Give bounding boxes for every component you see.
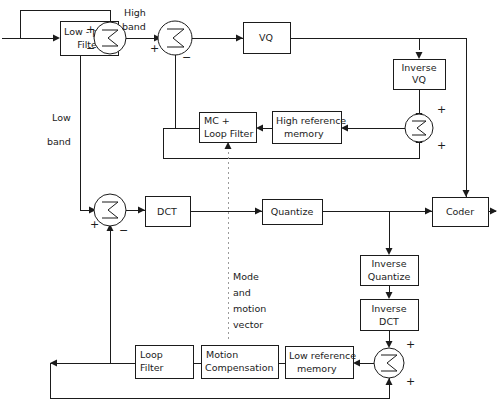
summer-high-reconstruct-plus-top: + xyxy=(437,103,446,116)
inverse-vq-label-line1: Inverse xyxy=(402,62,437,73)
summer-high-residual[interactable]: + − xyxy=(150,21,192,64)
low-reference-memory-label-line1: Low reference xyxy=(289,350,356,361)
summer-high-reconstruct-plus-bottom: + xyxy=(437,139,446,152)
mode-line2: and xyxy=(233,287,251,298)
arrowhead-summer-low-rec-top xyxy=(386,341,393,348)
block-inverse-vq[interactable]: Inverse VQ xyxy=(393,59,445,89)
block-loop-filter[interactable]: Loop Filter xyxy=(135,345,193,378)
mode-line3: motion xyxy=(233,303,266,314)
high-reference-memory-label-line1: High reference xyxy=(276,115,346,126)
low-band-line2: band xyxy=(47,136,71,147)
block-inverse-dct[interactable]: Inverse DCT xyxy=(360,299,418,330)
summer-high-split-plus: + xyxy=(86,23,95,36)
inverse-vq-label-line2: VQ xyxy=(412,74,426,85)
signal-flow-diagram: Low - pass Filter VQ Inverse VQ MC + Loo… xyxy=(0,0,499,413)
arrowhead-summer-low-rec-bottom xyxy=(386,378,393,385)
low-band-line1: Low xyxy=(52,112,71,123)
mc-loop-filter-label-line2: Loop Filter xyxy=(204,128,253,139)
summer-low-reconstruct[interactable]: + + xyxy=(374,338,415,388)
block-mc-loop-filter[interactable]: MC + Loop Filter xyxy=(199,112,256,142)
arrowhead-coder-top xyxy=(463,190,470,197)
arrowhead-inverse-vq-top xyxy=(416,52,423,59)
arrowhead-inverse-quantize-top xyxy=(386,248,393,255)
arrowhead-loopfilter-out xyxy=(50,360,57,367)
inverse-dct-label-line2: DCT xyxy=(379,316,399,327)
summer-low-reconstruct-plus-bottom: + xyxy=(406,375,415,388)
mc-loop-filter-label-line1: MC + xyxy=(204,115,230,126)
block-vq[interactable]: VQ xyxy=(243,22,290,53)
summer-low-reconstruct-circle xyxy=(374,348,404,378)
label-low-band: Low band xyxy=(47,112,71,147)
arrowhead-mcloop-bottom xyxy=(225,142,232,149)
label-high-band: High band xyxy=(122,7,146,32)
high-band-line1: High xyxy=(124,7,146,18)
summer-low-reconstruct-plus-top: + xyxy=(406,338,415,351)
label-mode-and-motion-vector: Mode and motion vector xyxy=(233,271,266,330)
summer-high-reconstruct-circle xyxy=(405,114,433,142)
summer-low-residual-minus: − xyxy=(119,224,128,237)
loop-filter-label-line2: Filter xyxy=(140,362,164,373)
arrowhead-dct-input xyxy=(138,207,145,214)
block-dct[interactable]: DCT xyxy=(145,196,190,226)
arrowhead-coder-output xyxy=(490,208,497,215)
coder-label: Coder xyxy=(446,206,474,217)
inverse-quantize-label-line1: Inverse xyxy=(372,258,407,269)
summer-high-residual-plus: + xyxy=(150,42,159,55)
loop-filter-label-line1: Loop xyxy=(140,349,163,360)
vq-label: VQ xyxy=(259,32,273,43)
arrowhead-mcloop-right-input xyxy=(256,125,263,132)
summer-high-split-minus: − xyxy=(86,42,95,55)
high-band-line2: band xyxy=(122,21,146,32)
arrowhead-lowpass-input xyxy=(53,35,60,42)
block-motion-compensation[interactable]: Motion Compensation xyxy=(201,345,278,378)
block-coder[interactable]: Coder xyxy=(432,197,488,226)
mode-line1: Mode xyxy=(233,271,259,282)
high-reference-memory-label-line2: memory xyxy=(284,128,324,139)
arrowhead-inverse-dct-top xyxy=(386,292,393,299)
motion-compensation-label-line2: Compensation xyxy=(205,362,274,373)
block-low-reference-memory[interactable]: Low reference memory xyxy=(285,346,356,378)
block-diagram-canvas: Low - pass Filter VQ Inverse VQ MC + Loo… xyxy=(0,0,499,413)
dct-label: DCT xyxy=(157,206,177,217)
inverse-dct-label-line1: Inverse xyxy=(372,303,407,314)
arrowhead-vq-input xyxy=(236,35,243,42)
summer-high-residual-circle xyxy=(158,21,192,55)
arrowhead-coder-left-input xyxy=(425,208,432,215)
block-high-reference-memory[interactable]: High reference memory xyxy=(272,111,346,143)
wire-lowband-branch xyxy=(80,38,96,210)
summer-high-residual-minus: − xyxy=(182,51,191,64)
block-quantize[interactable]: Quantize xyxy=(262,199,322,224)
motion-compensation-label-line1: Motion xyxy=(206,349,238,360)
arrowhead-quantize-input xyxy=(255,208,262,215)
mode-line4: vector xyxy=(233,319,263,330)
inverse-quantize-label-line2: Quantize xyxy=(368,271,411,282)
quantize-label: Quantize xyxy=(271,206,314,217)
block-inverse-quantize[interactable]: Inverse Quantize xyxy=(360,255,418,285)
low-reference-memory-label-line2: memory xyxy=(297,363,337,374)
summer-low-residual-plus: + xyxy=(90,218,99,231)
summer-high-reconstruct[interactable]: + + xyxy=(405,103,446,152)
